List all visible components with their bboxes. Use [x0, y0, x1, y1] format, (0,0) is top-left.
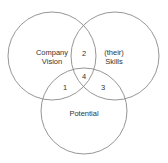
label-company-vision: Company Vision: [36, 48, 68, 66]
region-label-2: 2: [82, 49, 86, 58]
region-label-1: 1: [63, 83, 67, 92]
venn-diagram: [0, 0, 168, 163]
label-company-vision-line1: Company: [36, 48, 68, 57]
label-skills-line1: (their): [104, 48, 124, 57]
label-company-vision-line2: Vision: [36, 57, 68, 66]
region-label-4: 4: [82, 72, 86, 81]
label-skills: (their) Skills: [104, 48, 124, 66]
label-potential: Potential: [69, 109, 98, 118]
region-label-3: 3: [101, 83, 105, 92]
label-skills-line2: Skills: [104, 57, 124, 66]
